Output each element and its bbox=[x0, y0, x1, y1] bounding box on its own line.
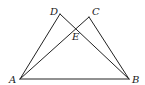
label-A: A bbox=[8, 74, 16, 85]
label-B: B bbox=[131, 74, 139, 85]
label-E: E bbox=[71, 31, 80, 42]
geometry-figure: A B C D E bbox=[0, 0, 145, 85]
label-D: D bbox=[49, 6, 58, 17]
segment-CB bbox=[89, 17, 129, 79]
segment-AD bbox=[20, 14, 60, 79]
segment-AC bbox=[20, 17, 89, 79]
label-C: C bbox=[92, 6, 100, 17]
segment-DB bbox=[60, 14, 129, 79]
